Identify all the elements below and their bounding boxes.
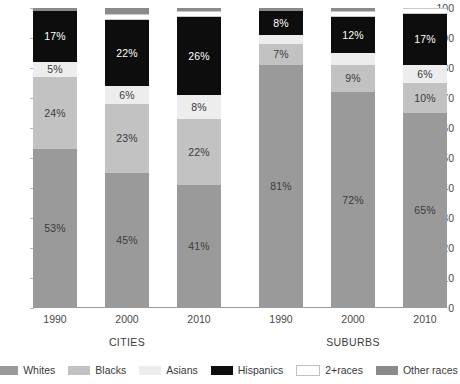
- bar-cities-1990[interactable]: 53%24%5%17%: [33, 8, 77, 308]
- bar-segment-other-races[interactable]: [259, 8, 303, 11]
- bar-segment-value-label: 41%: [188, 241, 210, 252]
- group-label-suburbs: SUBURBS: [293, 336, 413, 348]
- legend-label-hispanics: Hispanics: [238, 364, 284, 376]
- bar-segment-whites[interactable]: 72%: [331, 92, 375, 308]
- bar-segment-value-label: 26%: [188, 51, 210, 62]
- legend-item-whites[interactable]: Whites: [0, 364, 55, 376]
- bar-segment-blacks[interactable]: 7%: [259, 44, 303, 65]
- bar-segment-value-label: 24%: [44, 108, 66, 119]
- bar-segment-value-label: 12%: [342, 30, 364, 41]
- bar-segment-other-races[interactable]: [177, 8, 221, 11]
- legend-item-hispanics[interactable]: Hispanics: [211, 364, 284, 376]
- bar-segment-asians[interactable]: 8%: [177, 95, 221, 119]
- bar-segment-value-label: 6%: [417, 69, 433, 80]
- bar-segment-whites[interactable]: 65%: [403, 113, 447, 308]
- bar-segment-value-label: 45%: [116, 235, 138, 246]
- legend-label-2-races: 2+races: [325, 364, 363, 376]
- bar-segment-blacks[interactable]: 10%: [403, 83, 447, 113]
- x-axis-label-cities-1990: 1990: [20, 313, 90, 325]
- bar-segment-2-races[interactable]: [177, 11, 221, 17]
- bar-segment-whites[interactable]: 81%: [259, 65, 303, 308]
- bar-segment-2-races[interactable]: [403, 8, 447, 14]
- bar-segment-other-races[interactable]: [33, 8, 77, 11]
- x-axis-label-suburbs-2010: 2010: [390, 313, 460, 325]
- bar-segment-hispanics[interactable]: 12%: [331, 17, 375, 53]
- bar-suburbs-2000[interactable]: 72%9%12%: [331, 8, 375, 308]
- bar-segment-blacks[interactable]: 9%: [331, 65, 375, 92]
- chart-legend: WhitesBlacksAsiansHispanics2+racesOther …: [0, 362, 454, 378]
- legend-swatch-asians: [139, 366, 161, 375]
- bar-segment-whites[interactable]: 53%: [33, 149, 77, 308]
- bar-segment-hispanics[interactable]: 22%: [105, 20, 149, 86]
- bar-segment-whites[interactable]: 41%: [177, 185, 221, 308]
- legend-swatch-2-races: [296, 365, 320, 376]
- bar-segment-value-label: 17%: [414, 34, 436, 45]
- bar-segment-value-label: 22%: [116, 48, 138, 59]
- bar-segment-hispanics[interactable]: 8%: [259, 11, 303, 35]
- legend-label-whites: Whites: [23, 364, 55, 376]
- bar-segment-asians[interactable]: 6%: [105, 86, 149, 104]
- bar-segment-hispanics[interactable]: 17%: [403, 14, 447, 65]
- bar-segment-asians[interactable]: [259, 35, 303, 44]
- bar-segment-value-label: 10%: [414, 93, 436, 104]
- legend-item-asians[interactable]: Asians: [139, 364, 198, 376]
- bar-segment-value-label: 8%: [191, 102, 207, 113]
- legend-label-other-races: Other races: [403, 364, 458, 376]
- bar-suburbs-2010[interactable]: 65%10%6%17%: [403, 8, 447, 308]
- bar-segment-blacks[interactable]: 24%: [33, 77, 77, 149]
- legend-label-asians: Asians: [166, 364, 198, 376]
- bar-segment-2-races[interactable]: [105, 14, 149, 20]
- bar-segment-asians[interactable]: 6%: [403, 65, 447, 83]
- bar-segment-whites[interactable]: 45%: [105, 173, 149, 308]
- bar-cities-2000[interactable]: 45%23%6%22%: [105, 8, 149, 308]
- bar-segment-value-label: 23%: [116, 133, 138, 144]
- bar-segment-value-label: 65%: [414, 205, 436, 216]
- bar-segment-value-label: 53%: [44, 223, 66, 234]
- bar-segment-asians[interactable]: 5%: [33, 62, 77, 77]
- legend-item-2-races[interactable]: 2+races: [296, 364, 363, 376]
- group-label-cities: CITIES: [67, 336, 187, 348]
- bar-segment-value-label: 7%: [273, 49, 289, 60]
- legend-swatch-whites: [0, 366, 18, 375]
- bar-segment-value-label: 22%: [188, 147, 210, 158]
- bar-segment-value-label: 17%: [44, 31, 66, 42]
- bar-segment-2-races[interactable]: [331, 11, 375, 17]
- y-axis-tick-mark: [30, 308, 34, 309]
- x-axis-label-suburbs-2000: 2000: [318, 313, 388, 325]
- legend-item-other-races[interactable]: Other races: [376, 364, 458, 376]
- bar-segment-value-label: 9%: [345, 73, 361, 84]
- x-axis-label-suburbs-1990: 1990: [246, 313, 316, 325]
- bar-segment-value-label: 6%: [119, 90, 135, 101]
- x-axis-label-cities-2010: 2010: [164, 313, 234, 325]
- legend-swatch-other-races: [376, 366, 398, 375]
- legend-swatch-hispanics: [211, 366, 233, 375]
- bar-segment-blacks[interactable]: 23%: [105, 104, 149, 173]
- legend-item-blacks[interactable]: Blacks: [68, 364, 126, 376]
- bar-segment-hispanics[interactable]: 26%: [177, 17, 221, 95]
- bar-segment-asians[interactable]: [331, 53, 375, 65]
- x-axis-line: [33, 307, 446, 308]
- bar-segment-value-label: 8%: [273, 18, 289, 29]
- x-axis-label-cities-2000: 2000: [92, 313, 162, 325]
- legend-swatch-blacks: [68, 366, 90, 375]
- legend-label-blacks: Blacks: [95, 364, 126, 376]
- bar-segment-value-label: 81%: [270, 181, 292, 192]
- bar-segment-value-label: 5%: [47, 64, 63, 75]
- bar-segment-other-races[interactable]: [331, 8, 375, 11]
- bar-segment-other-races[interactable]: [105, 8, 149, 14]
- bar-segment-blacks[interactable]: 22%: [177, 119, 221, 185]
- bar-segment-value-label: 72%: [342, 195, 364, 206]
- bar-segment-hispanics[interactable]: 17%: [33, 11, 77, 62]
- bar-cities-2010[interactable]: 41%22%8%26%: [177, 8, 221, 308]
- bar-suburbs-1990[interactable]: 81%7%8%: [259, 8, 303, 308]
